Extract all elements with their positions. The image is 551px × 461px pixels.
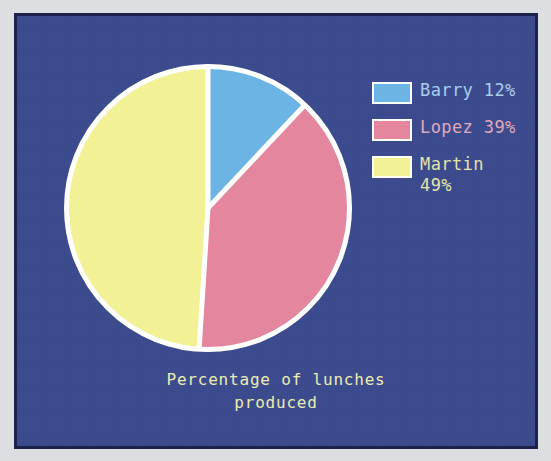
legend-swatch-lopez [372, 119, 412, 141]
legend-label-lopez: Lopez 39% [420, 117, 516, 138]
pie-slice-martin[interactable] [65, 65, 208, 351]
chart-frame: Barry 12% Lopez 39% Martin 49% Percentag… [14, 13, 538, 449]
caption-line-2: produced [17, 391, 535, 414]
legend-label-barry: Barry 12% [420, 80, 516, 101]
legend-swatch-martin [372, 156, 412, 178]
pie-chart [62, 62, 354, 354]
legend-item-martin[interactable]: Martin 49% [372, 154, 538, 196]
legend-item-lopez[interactable]: Lopez 39% [372, 117, 538, 141]
pie-chart-svg [62, 62, 354, 354]
legend-swatch-barry [372, 82, 412, 104]
caption-line-1: Percentage of lunches [17, 368, 535, 391]
figure-root: Barry 12% Lopez 39% Martin 49% Percentag… [0, 0, 551, 461]
chart-caption: Percentage of lunches produced [17, 368, 535, 414]
legend-item-barry[interactable]: Barry 12% [372, 80, 538, 104]
legend-label-martin: Martin 49% [420, 154, 484, 196]
legend: Barry 12% Lopez 39% Martin 49% [372, 80, 538, 209]
